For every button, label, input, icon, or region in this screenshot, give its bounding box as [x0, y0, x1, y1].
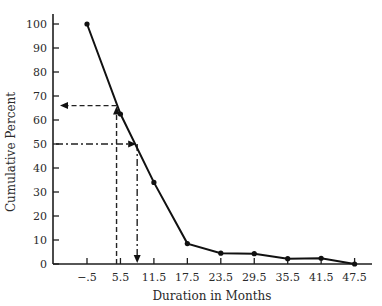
x-tick-label: 35.5 — [275, 271, 300, 284]
y-tick-label: 100 — [26, 18, 47, 31]
data-point — [352, 261, 357, 266]
x-tick-label: 17.5 — [175, 271, 200, 284]
x-tick-label: 47.5 — [342, 271, 367, 284]
x-axis-ticks: −.55.511.517.523.529.535.541.547.5 — [77, 258, 367, 284]
data-point — [252, 251, 257, 256]
data-point — [84, 21, 89, 26]
arrow-down-icon — [134, 255, 141, 263]
y-axis-ticks: 0102030405060708090100 — [26, 18, 59, 271]
annotation-guides — [56, 102, 141, 264]
x-tick-label: 23.5 — [209, 271, 234, 284]
data-points — [84, 21, 357, 266]
x-tick-label: 41.5 — [309, 271, 334, 284]
x-tick-label: 29.5 — [242, 271, 267, 284]
x-tick-label: 5.5 — [112, 271, 130, 284]
y-tick-label: 60 — [33, 114, 47, 127]
data-point — [185, 241, 190, 246]
y-tick-label: 20 — [33, 210, 47, 223]
data-point — [151, 180, 156, 185]
x-axis-title: Duration in Months — [153, 289, 272, 303]
data-point — [218, 251, 223, 256]
cumulative-percent-line-chart: 0102030405060708090100 −.55.511.517.523.… — [0, 0, 382, 306]
y-tick-label: 70 — [33, 90, 47, 103]
data-point — [118, 111, 123, 116]
y-tick-label: 30 — [33, 186, 47, 199]
y-tick-label: 10 — [33, 234, 47, 247]
y-tick-label: 50 — [33, 138, 47, 151]
arrow-left-icon — [60, 102, 68, 109]
y-tick-label: 90 — [33, 42, 47, 55]
y-axis-title: Cumulative Percent — [4, 92, 18, 212]
y-tick-label: 0 — [40, 258, 47, 271]
y-tick-label: 80 — [33, 66, 47, 79]
y-tick-label: 40 — [33, 162, 47, 175]
x-tick-label: −.5 — [77, 271, 97, 284]
data-point — [285, 256, 290, 261]
x-tick-label: 11.5 — [142, 271, 167, 284]
data-point — [319, 256, 324, 261]
